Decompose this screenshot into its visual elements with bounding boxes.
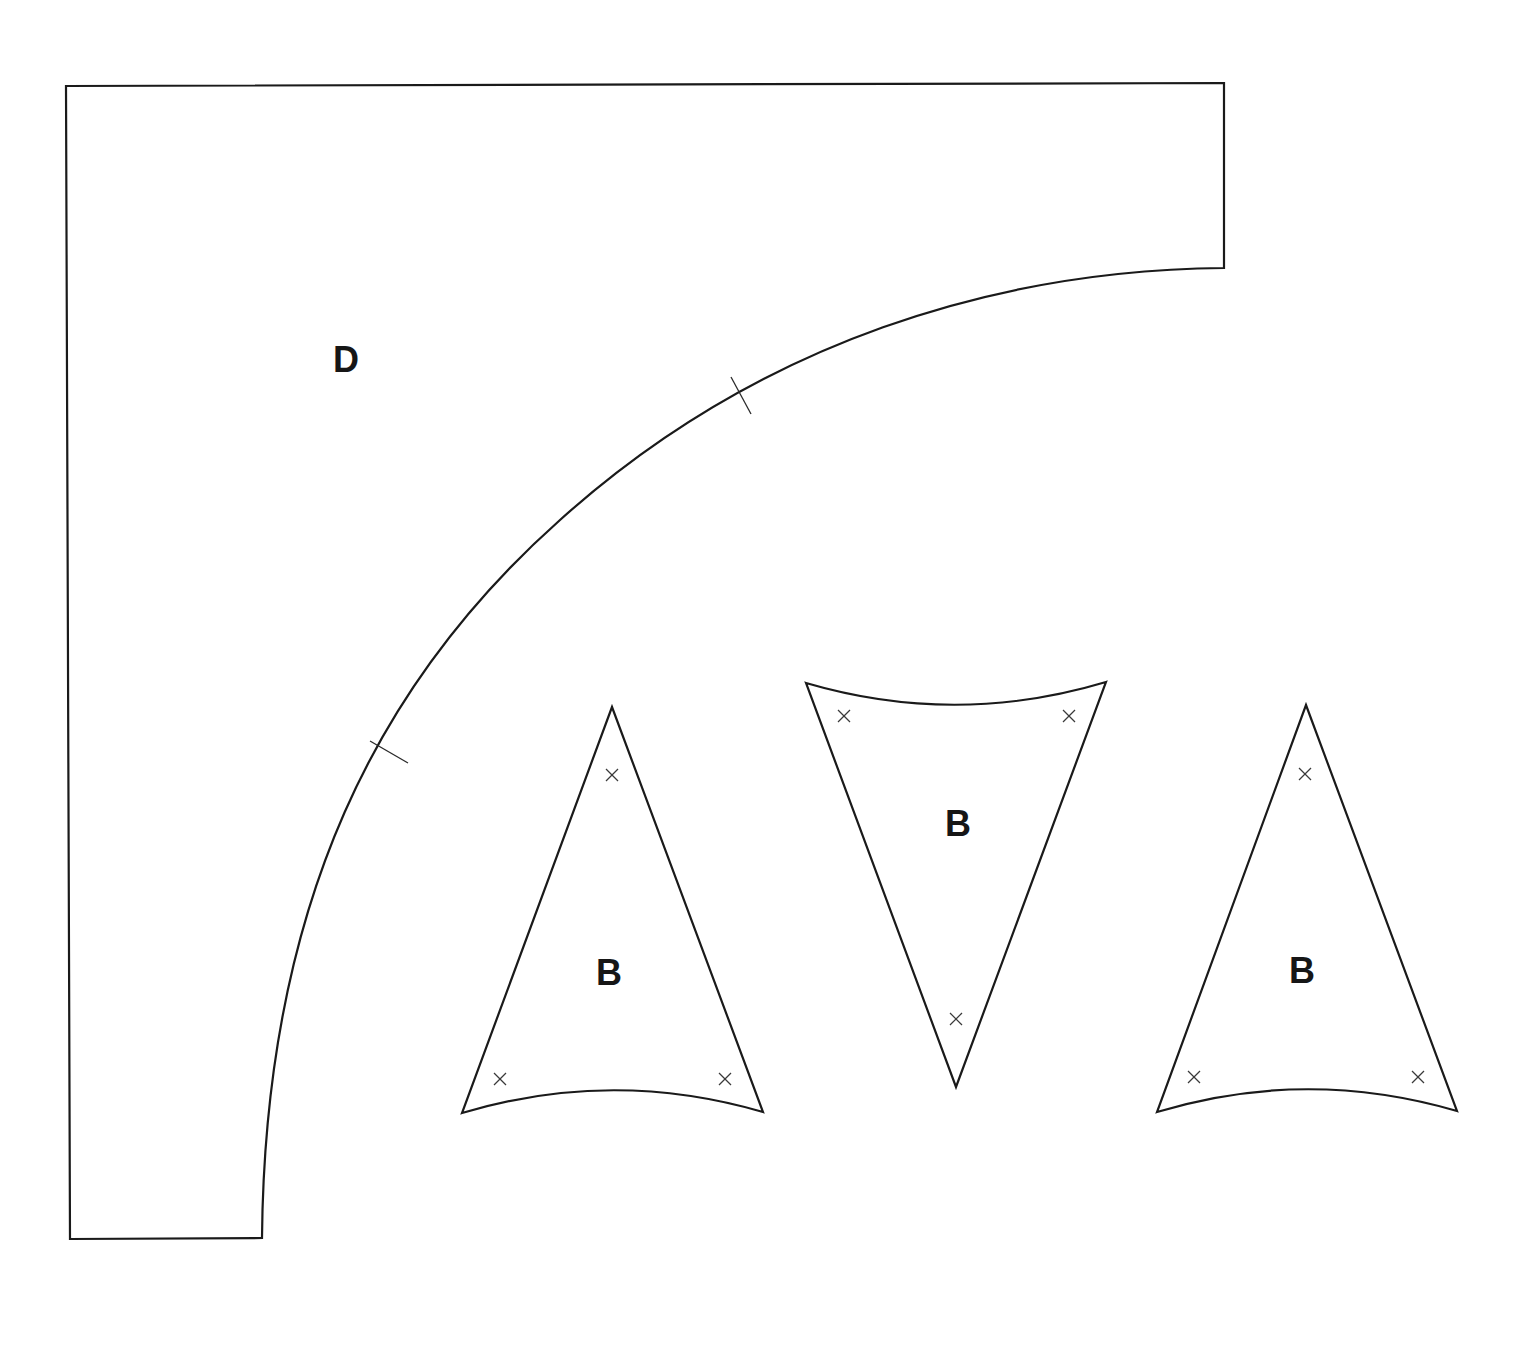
pattern-canvas: D B B [0,0,1532,1345]
piece-b-2-label: B [945,803,971,844]
piece-b-1-outline [462,707,763,1113]
notch-mark-lower [370,741,408,763]
piece-b-2: B [806,682,1106,1087]
piece-b-1-label: B [596,952,622,993]
piece-b-1: B [462,707,763,1113]
piece-b-3-outline [1157,705,1457,1112]
piece-b-3: B [1157,705,1457,1112]
piece-d-label: D [333,339,359,380]
piece-b-3-label: B [1289,950,1315,991]
piece-b-2-outline [806,682,1106,1087]
